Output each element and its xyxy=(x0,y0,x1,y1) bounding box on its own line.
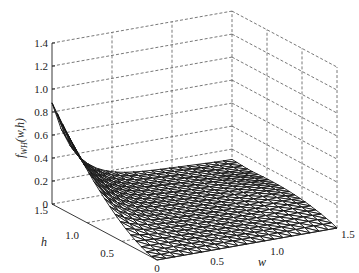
z-tick-label: 0.8 xyxy=(34,106,48,118)
z-tick-label: 1.0 xyxy=(34,83,48,95)
y-axis-label: h xyxy=(41,235,47,249)
z-tick-label: 0.6 xyxy=(34,129,48,141)
z-tick-label: 0.4 xyxy=(34,152,48,164)
z-tick-label: 0.2 xyxy=(34,175,48,187)
x-axis-label: w xyxy=(258,255,266,269)
origin-tick-label: 0 xyxy=(154,262,160,273)
svg-text:fWH(w,h): fWH(w,h) xyxy=(13,118,29,158)
x-tick-label: 1.5 xyxy=(341,228,355,240)
z-tick-label: 1.2 xyxy=(34,60,48,72)
z-tick-label: 1.4 xyxy=(34,37,48,49)
y-tick-label: 1.5 xyxy=(34,204,48,216)
x-tick-label: 1.0 xyxy=(270,245,284,257)
x-tick-label: 0.5 xyxy=(210,255,224,267)
surface-plot: 00.20.40.60.81.01.21.40.51.01.500.51.01.… xyxy=(0,0,359,273)
surface-mesh xyxy=(52,103,337,260)
y-tick-label: 1.0 xyxy=(65,229,79,241)
z-axis-label: fWH(w,h) xyxy=(13,118,29,158)
y-tick-label: 0.5 xyxy=(100,247,114,259)
